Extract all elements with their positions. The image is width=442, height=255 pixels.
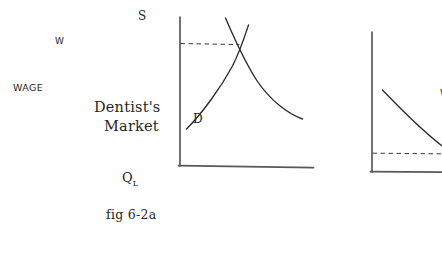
fig-6-2a-equilibrium-wage-label: W (55, 37, 64, 46)
fig-6-2b-demand-curve (383, 90, 442, 168)
figure-6-2a: WAGE W S D Dentist's Market QL fig 6-2a (0, 0, 221, 255)
fig-6-2a-x-axis-label-sub: L (133, 179, 138, 188)
fig-6-2a-x-axis-label-main: Q (122, 170, 133, 185)
fig-6-2b-x-axis (371, 172, 442, 173)
fig-6-2a-title-line-2: Market (104, 119, 159, 134)
fig-6-2a-y-axis-label: WAGE (13, 83, 43, 93)
figure-6-2b: WAGE W S D Waitress' Market QL fig 6-2b (221, 0, 442, 255)
fig-6-2a-x-axis-label: QL (122, 171, 138, 188)
fig-6-2b-plot-area (221, 0, 442, 255)
fig-6-2a-title-line-1: Dentist's (94, 100, 161, 115)
fig-6-2a-demand-label: D (193, 113, 203, 125)
fig-6-2b-wage-guide-line (373, 153, 442, 154)
fig-6-2a-supply-label: S (138, 10, 146, 22)
fig-6-2a-caption: fig 6-2a (106, 209, 157, 222)
